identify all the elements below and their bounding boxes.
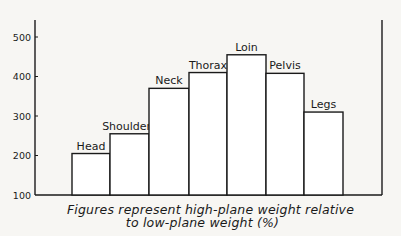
bar-label: Loin [235, 41, 258, 54]
bar-label: Head [77, 140, 106, 153]
y-tick-label: 100 [13, 190, 31, 201]
bar-label: Neck [155, 74, 183, 87]
y-axis-ticks: 100200300400500 [13, 32, 38, 201]
bar-label: Legs [311, 98, 337, 111]
y-tick-label: 400 [13, 71, 31, 82]
y-tick-label: 200 [13, 150, 31, 161]
bar-label: Thorax [188, 59, 228, 72]
bar-head [72, 154, 110, 195]
y-tick-label: 500 [13, 32, 31, 43]
bar-neck [149, 88, 189, 195]
bar-shoulders [110, 134, 149, 195]
bar-pelvis [266, 73, 304, 195]
caption-line-2: to low-plane weight (%) [2, 216, 401, 229]
y-tick-label: 300 [13, 111, 31, 122]
bar-legs [304, 112, 343, 195]
bars: HeadShouldersNeckThoraxLoinPelvisLegs [72, 41, 343, 195]
bar-label: Pelvis [269, 59, 301, 72]
bar-loin [227, 55, 266, 195]
bar-thorax [189, 73, 227, 195]
bar-chart: 100200300400500 HeadShouldersNeckThoraxL… [0, 0, 401, 236]
